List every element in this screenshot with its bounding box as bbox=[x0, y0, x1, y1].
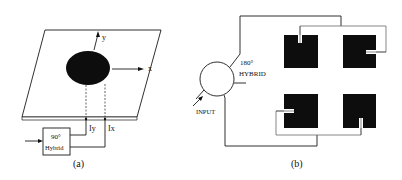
port-iy-label: Iy bbox=[89, 124, 96, 133]
caption-b: (b) bbox=[291, 158, 303, 170]
caption-a: (a) bbox=[73, 158, 84, 170]
ground-plane-edge bbox=[22, 117, 137, 120]
hybrid-stub-top bbox=[230, 54, 240, 67]
circular-patch bbox=[66, 51, 110, 85]
port-ix-label: Ix bbox=[108, 124, 115, 133]
y-axis-label: y bbox=[102, 33, 106, 42]
input-label: INPUT bbox=[196, 108, 215, 115]
hybrid-180-label: 180° bbox=[240, 59, 254, 67]
hybrid-180-sublabel: HYBRID bbox=[239, 70, 266, 78]
feed-point-y bbox=[85, 118, 87, 120]
hybrid-stub-bottom bbox=[224, 95, 225, 98]
panel-b: 180° HYBRID INPUT (b) bbox=[193, 16, 386, 170]
antenna-diagram: y x Iy Ix 90° Hybrid (a) 180° HYBRID bbox=[0, 0, 402, 180]
x-axis-label: x bbox=[148, 64, 152, 73]
feed-line-iy bbox=[70, 120, 86, 135]
hybrid-90-label: 90° bbox=[51, 133, 61, 141]
hybrid-90-sublabel: Hybrid bbox=[45, 144, 64, 151]
hybrid-180-ring bbox=[200, 62, 234, 96]
input-arrowhead-icon bbox=[38, 139, 43, 143]
feed-line-ix bbox=[70, 120, 105, 147]
panel-a: y x Iy Ix 90° Hybrid (a) bbox=[22, 30, 161, 170]
feed-point-x bbox=[104, 118, 106, 120]
